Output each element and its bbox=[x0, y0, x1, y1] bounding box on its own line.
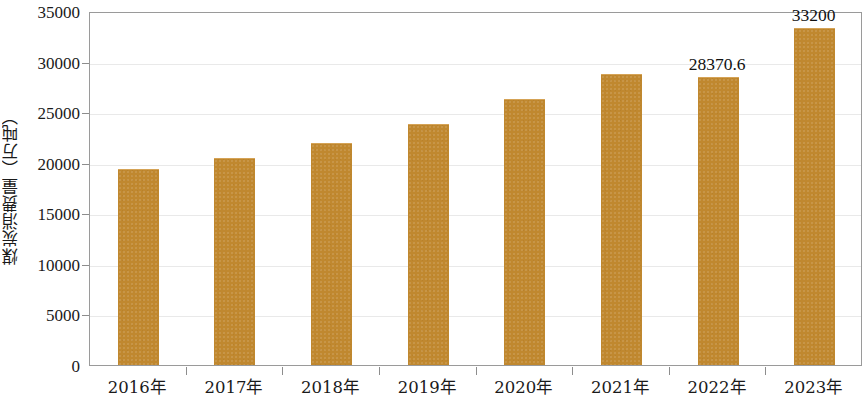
bar[interactable] bbox=[504, 99, 545, 365]
y-axis-title-text: 煤炭消费量（万吨） bbox=[0, 107, 24, 265]
y-tick-label: 35000 bbox=[0, 4, 80, 21]
y-tick-label: 10000 bbox=[0, 257, 80, 274]
bar[interactable] bbox=[601, 74, 642, 365]
bar[interactable] bbox=[794, 28, 835, 365]
x-tick-mark bbox=[379, 367, 380, 375]
x-tick-mark bbox=[572, 367, 573, 375]
y-tick-label: 15000 bbox=[0, 206, 80, 223]
bar-chart-figure: 煤炭消费量（万吨） 050001000015000200002500030000… bbox=[0, 0, 867, 405]
x-tick-mark bbox=[186, 367, 187, 375]
bar-value-label: 33200 bbox=[754, 7, 867, 25]
y-tick-label: 20000 bbox=[0, 156, 80, 173]
x-tick-mark bbox=[669, 367, 670, 375]
y-tick-label: 30000 bbox=[0, 55, 80, 72]
x-tick-mark bbox=[282, 367, 283, 375]
x-tick-label: 2023年 bbox=[754, 380, 867, 397]
x-tick-mark bbox=[765, 367, 766, 375]
gridline bbox=[90, 114, 861, 115]
bar-value-label: 28370.6 bbox=[657, 56, 777, 74]
gridline bbox=[90, 215, 861, 216]
y-tick-label: 5000 bbox=[0, 307, 80, 324]
bar[interactable] bbox=[311, 143, 352, 365]
bar[interactable] bbox=[408, 124, 449, 365]
bar[interactable] bbox=[118, 169, 159, 365]
gridline bbox=[90, 316, 861, 317]
bar[interactable] bbox=[214, 158, 255, 365]
bar[interactable] bbox=[698, 77, 739, 365]
y-tick-label: 25000 bbox=[0, 105, 80, 122]
gridline bbox=[90, 165, 861, 166]
y-tick-label: 0 bbox=[0, 358, 80, 375]
x-tick-mark bbox=[476, 367, 477, 375]
gridline bbox=[90, 266, 861, 267]
